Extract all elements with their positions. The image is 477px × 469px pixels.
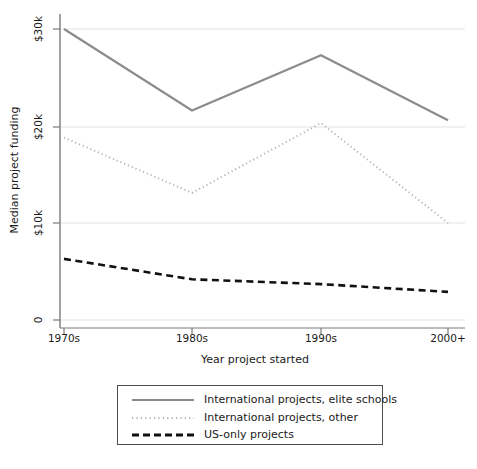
y-axis-ticks	[53, 29, 60, 320]
series-line-us-only	[64, 259, 448, 292]
x-tick-label-2000plus: 2000+	[413, 332, 477, 344]
x-tick-label-1990s: 1990s	[286, 332, 356, 344]
legend-label-elite: International projects, elite schools	[204, 390, 397, 410]
chart-legend: International projects, elite schools In…	[117, 385, 383, 445]
legend-item-us-only: US-only projects	[118, 425, 382, 445]
chart-figure: Median project funding 0 $10k $20k $30k	[0, 0, 477, 469]
legend-item-elite: International projects, elite schools	[118, 390, 382, 410]
x-tick-label-1970s: 1970s	[29, 332, 99, 344]
x-axis-ticks	[64, 328, 448, 334]
x-axis-title: Year project started	[60, 353, 450, 366]
legend-label-us-only: US-only projects	[204, 425, 294, 445]
legend-swatch-dashed-line	[129, 425, 197, 445]
gridlines	[60, 29, 465, 320]
series-line-international-other	[64, 123, 448, 223]
x-tick-label-1980s: 1980s	[157, 332, 227, 344]
legend-swatch-solid-line	[129, 390, 197, 410]
series-line-international-elite	[64, 29, 448, 120]
